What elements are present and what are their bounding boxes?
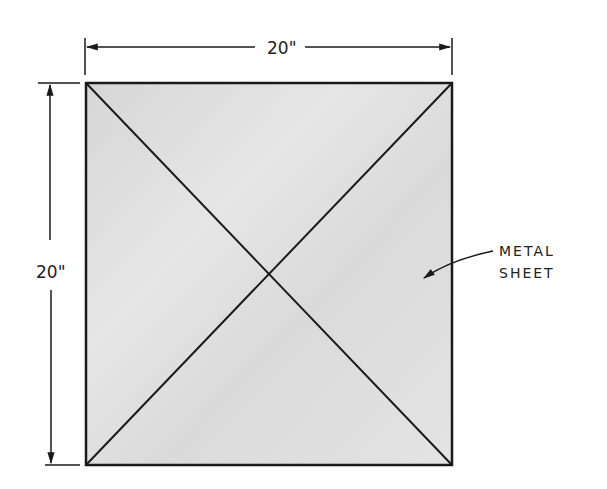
metal-sheet-callout: METAL SHEET [499, 240, 555, 284]
top-dimension-label: 20" [263, 38, 300, 58]
callout-line-2: SHEET [499, 262, 555, 284]
left-dimension-label: 20" [36, 262, 65, 282]
callout-line-1: METAL [499, 240, 555, 262]
